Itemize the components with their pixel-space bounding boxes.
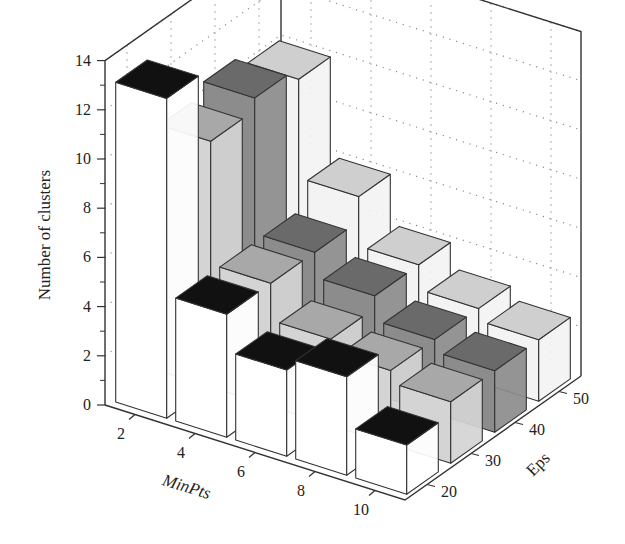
z-tick-label: 8: [83, 199, 91, 216]
z-tick-label: 14: [75, 52, 91, 69]
z-tick-label: 6: [83, 248, 91, 265]
3d-bar-chart: 0246810121424681020304050 Number of clus…: [0, 0, 625, 544]
z-tick-label: 0: [83, 396, 91, 413]
x-tick-label: 2: [117, 425, 125, 442]
y-tick-label: 20: [441, 483, 457, 500]
z-tick-label: 10: [75, 150, 91, 167]
z-tick-label: 2: [83, 347, 91, 364]
x-tick-label: 10: [353, 501, 369, 518]
y-axis-title: Eps: [522, 448, 553, 479]
y-tick-label: 30: [485, 452, 501, 469]
z-tick-label: 12: [75, 101, 91, 118]
y-tick-label: 40: [529, 421, 545, 438]
y-tick-label: 50: [573, 390, 589, 407]
x-tick-label: 4: [177, 444, 185, 461]
x-axis-title: MinPts: [159, 470, 213, 503]
x-tick-label: 6: [237, 463, 245, 480]
bar: [356, 407, 439, 495]
z-tick-label: 4: [83, 298, 91, 315]
x-tick-label: 8: [297, 482, 305, 499]
z-axis-title: Number of clusters: [35, 170, 54, 300]
bars: [116, 41, 571, 494]
